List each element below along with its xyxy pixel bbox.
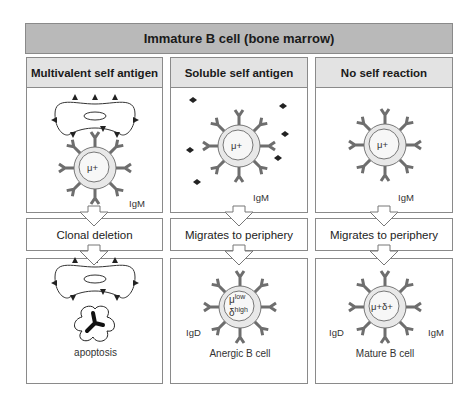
anergic-b-cell-illustration [171,259,309,385]
panel-no-reaction-bottom: μ+δ+ IgD IgM Mature B cell [315,258,453,384]
diagram-title: Immature B cell (bone marrow) [25,23,453,54]
receptor-label-igd: IgD [329,327,344,338]
panel-multivalent-top: μ+ IgM [26,87,163,213]
apoptosis-illustration [27,259,164,385]
receptor-label-igm: IgM [428,327,444,338]
delta-superscript: high [235,306,248,313]
caption-apoptosis: apoptosis [27,347,164,358]
marker-mu-low: μlow [229,293,245,305]
cell-marker: μ+ [377,139,388,150]
panel-no-reaction-top: μ+ IgM [315,87,453,213]
column-header-no-self-reaction: No self reaction [315,57,453,88]
caption-mature: Mature B cell [316,348,454,359]
receptor-label-igm: IgM [398,192,414,203]
marker-delta-high: δhigh [229,306,248,318]
outcome-clonal-deletion: Clonal deletion [26,218,163,251]
outcome-migrates-no-reaction: Migrates to periphery [315,218,453,251]
caption-anergic: Anergic B cell [171,348,309,359]
mu-superscript: low [235,293,246,300]
soluble-antigen-illustration [171,88,309,214]
panel-soluble-bottom: μlow δhigh IgD Anergic B cell [170,258,308,384]
panel-multivalent-bottom: apoptosis [26,258,163,384]
immature-b-cell-illustration [316,88,454,214]
multivalent-antigen-binding-illustration [27,88,164,214]
cell-marker: μ+ [87,162,98,173]
cell-marker: μ+δ+ [371,301,393,312]
cell-marker: μ+ [231,140,242,151]
column-header-multivalent: Multivalent self antigen [26,57,163,88]
receptor-label-igm: IgM [253,192,269,203]
mature-b-cell-illustration [316,259,454,385]
receptor-label-igm: IgM [129,198,145,209]
receptor-label-igd: IgD [186,327,201,338]
column-header-soluble: Soluble self antigen [170,57,308,88]
panel-soluble-top: μ+ IgM [170,87,308,213]
outcome-migrates-soluble: Migrates to periphery [170,218,308,251]
